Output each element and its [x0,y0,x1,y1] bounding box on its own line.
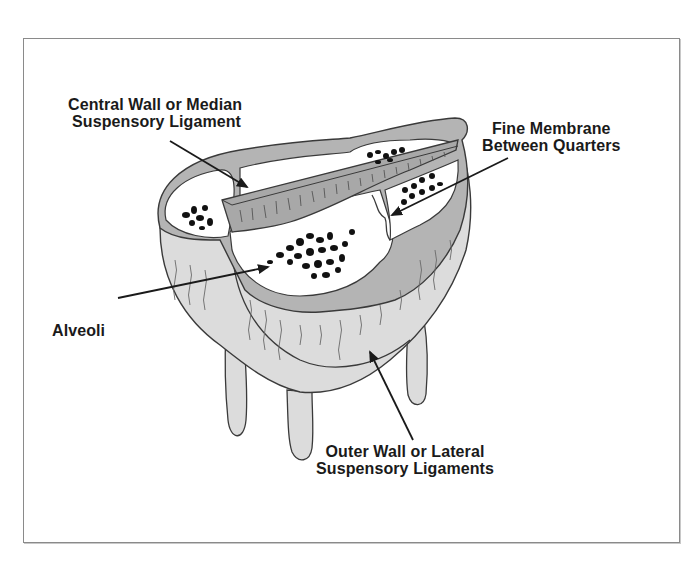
label-fine-membrane: Fine Membrane Between Quarters [482,120,621,154]
udder-illustration [0,0,696,564]
label-outer-wall: Outer Wall or Lateral Suspensory Ligamen… [316,443,494,477]
teat-center [287,390,313,460]
label-line: Central Wall or Median [68,96,242,113]
label-line: Alveoli [52,322,105,339]
label-line: Fine Membrane [482,120,621,137]
label-line: Outer Wall or Lateral [316,443,494,460]
label-line: Suspensory Ligaments [316,460,494,477]
label-line: Between Quarters [482,137,621,154]
label-central-wall: Central Wall or Median Suspensory Ligame… [68,96,242,130]
label-alveoli: Alveoli [52,322,105,339]
label-line: Suspensory Ligament [68,113,242,130]
